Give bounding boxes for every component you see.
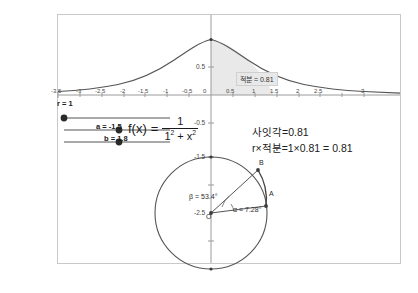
- product-result-text: r×적분=1×0.81 = 0.81: [252, 140, 353, 156]
- slider-label-r[interactable]: r = 1: [57, 99, 73, 108]
- x-tick-label: 0: [203, 88, 206, 94]
- x-tick-label: -1.5: [138, 88, 148, 94]
- point-b-marker[interactable]: [256, 168, 260, 172]
- x-tick-label: -2: [120, 88, 125, 94]
- x-tick-label: 0.5: [226, 88, 234, 94]
- point-a-label: A: [269, 190, 274, 197]
- x-tick-label: 1.5: [270, 88, 278, 94]
- den-exp-x: 2: [192, 129, 196, 136]
- x-tick-label: 2.5: [314, 88, 322, 94]
- den-exp-a: 2: [171, 129, 175, 136]
- x-tick-label: 1: [252, 88, 255, 94]
- x-tick-label: -3: [76, 88, 81, 94]
- y-tick-label: -1.5: [194, 153, 205, 160]
- x-tick-label: -2.5: [95, 88, 105, 94]
- annotation-block: 사잇각=0.81 r×적분=1×0.81 = 0.81: [252, 124, 353, 157]
- angle-beta-label: β = 53.4°: [189, 193, 217, 200]
- den-plus: +: [177, 129, 183, 141]
- slider-handle-r[interactable]: [61, 115, 68, 122]
- curve-peak-marker: [209, 38, 212, 41]
- graphics-canvas[interactable]: [0, 0, 418, 293]
- integral-shaded-region: [211, 40, 273, 96]
- circle-bottom-marker: [209, 267, 212, 270]
- formula-fname: f(x): [128, 121, 147, 136]
- point-a-marker[interactable]: [264, 204, 268, 208]
- x-tick-label: -1: [163, 88, 168, 94]
- formula-denominator: 12 + x2: [162, 129, 198, 142]
- x-tick-label: 3: [361, 88, 364, 94]
- circle-top-marker: [209, 155, 212, 158]
- formula-numerator: 1: [173, 116, 187, 128]
- y-tick-label: 0.5: [196, 63, 205, 70]
- slider-label-a[interactable]: a = -1.5: [96, 122, 122, 131]
- angle-between-text: 사잇각=0.81: [252, 124, 353, 140]
- slider-label-b[interactable]: b = 1.8: [104, 134, 128, 143]
- point-b-label: B: [259, 159, 264, 166]
- integral-value-box[interactable]: 적분 = 0.81: [236, 72, 278, 86]
- x-tick-label: 2: [296, 88, 299, 94]
- x-tick-label: -3.5: [51, 88, 61, 94]
- y-tick-label: -2.5: [194, 209, 205, 216]
- function-formula: f(x) = 1 12 + x2: [128, 116, 198, 142]
- origin-label: O: [206, 213, 211, 220]
- x-tick-label: -0.5: [182, 88, 192, 94]
- formula-fraction: 1 12 + x2: [162, 116, 198, 142]
- formula-equals: =: [151, 121, 159, 136]
- applet-root: -3.5 -3 -2.5 -2 -1.5 -1 -0.5 0 0.5 1 1.5…: [0, 0, 418, 293]
- angle-alpha-label: α = 7.28°: [233, 206, 261, 213]
